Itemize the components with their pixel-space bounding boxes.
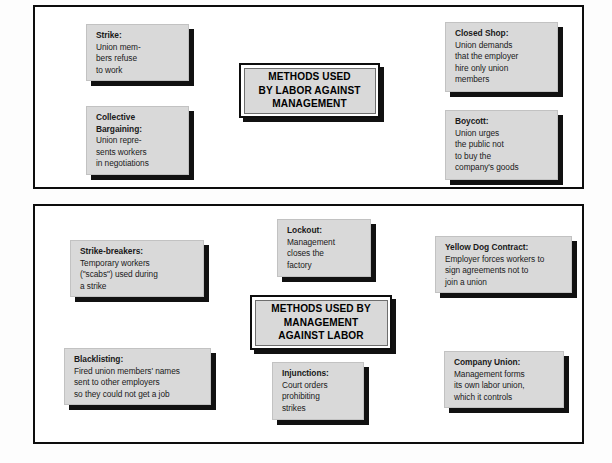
node-strike-breakers-title: Strike-breakers: [80, 246, 196, 258]
node-closed-shop-line-2: that the employer [455, 51, 550, 63]
node-boycott-line-1: Union urges [455, 128, 550, 140]
node-yellow-dog-contract-line-1: Employer forces workers to [445, 254, 564, 266]
node-injunctions-line-3: strikes [282, 403, 356, 415]
node-injunctions-line-1: Court orders [282, 380, 356, 392]
node-injunctions-line-2: prohibiting [282, 391, 356, 403]
node-strike-breakers-line-3: a strike [80, 281, 196, 293]
node-strike-title: Strike: [96, 30, 181, 42]
node-lockout-line-1: Management [287, 237, 363, 249]
node-collective-bargaining-line-2: sents workers [96, 147, 181, 159]
hub-management-title-line-2: MANAGEMENT [284, 316, 358, 329]
node-boycott[interactable]: Boycott: Union urges the public not to b… [445, 110, 558, 180]
hub-methods-used-by-management-against-labor[interactable]: METHODS USED BY MANAGEMENT AGAINST LABOR [250, 295, 392, 350]
node-blacklisting-title: Blacklisting: [74, 354, 203, 366]
node-strike-breakers[interactable]: Strike-breakers: Temporary workers ("sca… [70, 240, 204, 297]
node-yellow-dog-contract[interactable]: Yellow Dog Contract: Employer forces wor… [435, 236, 572, 293]
hub-management-title-line-1: METHODS USED BY [271, 302, 371, 315]
node-injunctions[interactable]: Injunctions: Court orders prohibiting st… [272, 362, 364, 420]
node-closed-shop-line-4: members [455, 74, 550, 86]
node-boycott-line-4: company's goods [455, 162, 550, 174]
node-strike[interactable]: Strike: Union mem- bers refuse to work [86, 24, 189, 81]
node-company-union-line-2: its own labor union, [454, 380, 556, 392]
node-closed-shop[interactable]: Closed Shop: Union demands that the empl… [445, 22, 558, 92]
node-boycott-line-2: the public not [455, 139, 550, 151]
node-yellow-dog-contract-title: Yellow Dog Contract: [445, 242, 564, 254]
node-collective-bargaining-title: Collective [96, 112, 181, 124]
node-strike-breakers-line-2: ("scabs") used during [80, 269, 196, 281]
node-strike-line-1: Union mem- [96, 42, 181, 54]
node-lockout[interactable]: Lockout: Management closes the factory [277, 219, 371, 277]
node-yellow-dog-contract-line-2: sign agreements not to [445, 265, 564, 277]
node-strike-line-3: to work [96, 65, 181, 77]
node-company-union-title: Company Union: [454, 357, 556, 369]
hub-methods-used-by-labor-against-management[interactable]: METHODS USED BY LABOR AGAINST MANAGEMENT [239, 63, 380, 118]
node-blacklisting-line-2: sent to other employers [74, 377, 203, 389]
node-collective-bargaining-line-3: in negotiations [96, 158, 181, 170]
hub-labor-title-line-3: MANAGEMENT [272, 97, 346, 110]
node-closed-shop-line-1: Union demands [455, 40, 550, 52]
node-lockout-line-3: factory [287, 260, 363, 272]
node-company-union[interactable]: Company Union: Management forms its own … [444, 351, 564, 408]
node-yellow-dog-contract-line-3: join a union [445, 277, 564, 289]
node-collective-bargaining-title-2: Bargaining: [96, 124, 181, 136]
node-lockout-line-2: closes the [287, 248, 363, 260]
hub-management-title-line-3: AGAINST LABOR [278, 329, 363, 342]
node-blacklisting-line-3: so they could not get a job [74, 389, 203, 401]
node-strike-line-2: bers refuse [96, 53, 181, 65]
hub-labor-title-line-2: BY LABOR AGAINST [259, 84, 361, 97]
diagram-page: Strike: Union mem- bers refuse to work C… [0, 0, 612, 463]
node-boycott-line-3: to buy the [455, 151, 550, 163]
node-collective-bargaining-line-1: Union repre- [96, 135, 181, 147]
node-closed-shop-line-3: hire only union [455, 63, 550, 75]
node-blacklisting-line-1: Fired union members' names [74, 366, 203, 378]
node-closed-shop-title: Closed Shop: [455, 28, 550, 40]
node-strike-breakers-line-1: Temporary workers [80, 258, 196, 270]
node-boycott-title: Boycott: [455, 116, 550, 128]
node-collective-bargaining[interactable]: Collective Bargaining: Union repre- sent… [86, 106, 189, 175]
node-company-union-line-3: which it controls [454, 392, 556, 404]
hub-management-inner: METHODS USED BY MANAGEMENT AGAINST LABOR [255, 300, 388, 346]
hub-labor-title-line-1: METHODS USED [268, 70, 351, 83]
node-injunctions-title: Injunctions: [282, 368, 356, 380]
node-lockout-title: Lockout: [287, 225, 363, 237]
node-blacklisting[interactable]: Blacklisting: Fired union members' names… [64, 348, 211, 405]
hub-labor-inner: METHODS USED BY LABOR AGAINST MANAGEMENT [244, 68, 376, 114]
node-company-union-line-1: Management forms [454, 369, 556, 381]
